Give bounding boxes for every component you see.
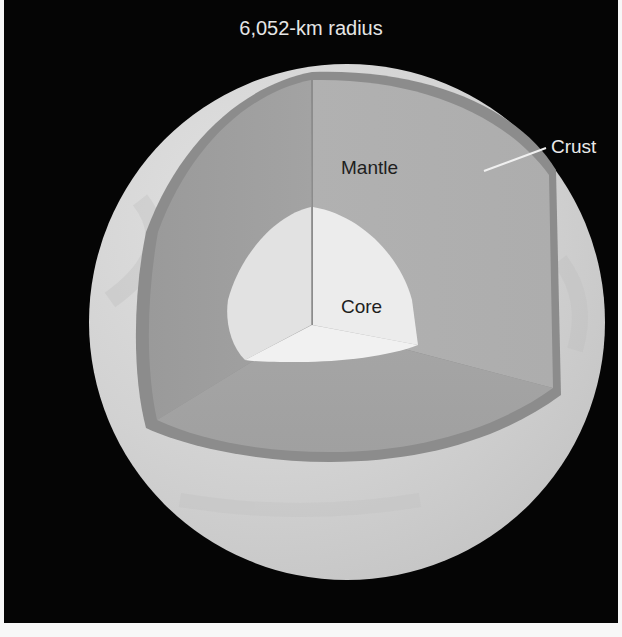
planet-radius-title: 6,052-km radius	[0, 17, 622, 40]
core-label: Core	[341, 296, 382, 318]
mantle-label: Mantle	[341, 157, 398, 179]
crust-label: Crust	[551, 136, 596, 158]
planet-cutaway-diagram	[0, 0, 622, 637]
